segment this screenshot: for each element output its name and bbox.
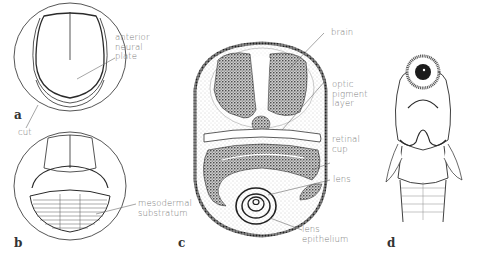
- label-optic-pigment-layer: optic pigment layer: [332, 80, 368, 109]
- panel-c-cross-section: [195, 33, 330, 236]
- embryo-illustration: [0, 0, 478, 257]
- panel-letter-a: a: [14, 108, 22, 122]
- panel-letter-d: d: [387, 236, 395, 250]
- panel-a-neural-plate-embryo: [14, 3, 126, 128]
- label-lens-epithelium: lens epithelium: [302, 225, 348, 244]
- panel-letter-c: c: [178, 236, 185, 250]
- label-cut: cut: [18, 128, 32, 138]
- panel-letter-b: b: [14, 236, 22, 250]
- label-lens: lens: [333, 175, 351, 185]
- label-mesodermal-substratum: mesodermal substratum: [138, 199, 192, 218]
- label-retinal-cup: retinal cup: [332, 135, 360, 154]
- label-anterior-neural-plate: anterior neural plate: [115, 33, 150, 62]
- panel-b-mesodermal-embryo: [14, 132, 136, 240]
- panel-d-cyclopic-larva: [386, 56, 462, 222]
- label-brain: brain: [331, 28, 353, 38]
